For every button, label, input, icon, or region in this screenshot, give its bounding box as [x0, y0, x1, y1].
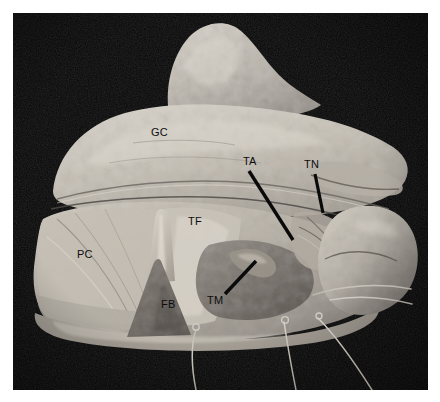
- ta-leader-line: [249, 171, 293, 240]
- figure-root: GC TA TN TF PC FB TM: [0, 0, 440, 402]
- tn-leader-line: [315, 174, 323, 213]
- leader-line-layer: [0, 0, 440, 402]
- tm-leader-line: [225, 261, 256, 294]
